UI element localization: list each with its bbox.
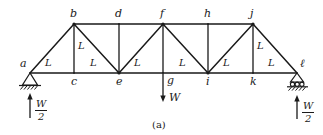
pin-support-hatching xyxy=(21,86,38,90)
figure-caption: (a) xyxy=(152,119,166,130)
node-label-a: a xyxy=(20,58,27,69)
reaction-left-arrowhead xyxy=(27,93,32,100)
length-label-bottom-4: L xyxy=(179,58,186,68)
pin-support-triangle xyxy=(23,73,38,85)
roller-support-rollers xyxy=(290,82,304,86)
reaction-label-left: W 2 xyxy=(35,99,47,122)
member-i-j xyxy=(208,24,253,73)
node-label-g: g xyxy=(167,75,174,86)
applied-load-arrowhead xyxy=(160,96,165,103)
reaction-right-arrowhead xyxy=(294,95,299,102)
joint-j xyxy=(251,22,254,25)
reaction-label-right: W 2 xyxy=(302,101,314,124)
node-label-i: i xyxy=(206,76,210,87)
node-label-b: b xyxy=(70,8,77,19)
length-label-vertical-jk: L xyxy=(257,41,264,51)
reaction-right-denominator: 2 xyxy=(302,114,314,125)
length-label-bottom-6: L xyxy=(268,58,275,68)
node-label-l: ℓ xyxy=(300,58,305,69)
reaction-left-denominator: 2 xyxy=(35,112,47,123)
node-label-f: f xyxy=(160,8,164,19)
reaction-arrow-left xyxy=(27,93,32,118)
reaction-right-numerator: W xyxy=(302,101,314,112)
length-label-bottom-3: L xyxy=(134,58,141,68)
pin-support-left xyxy=(19,73,41,90)
length-label-bottom-2: L xyxy=(90,58,97,68)
joint-b xyxy=(72,22,75,25)
length-label-bottom-1: L xyxy=(45,58,52,68)
reaction-arrow-right xyxy=(294,95,299,119)
member-a-b xyxy=(30,24,74,73)
node-label-d: d xyxy=(115,8,122,19)
roller-support-triangle xyxy=(291,73,304,82)
member-e-f xyxy=(119,24,163,73)
node-label-c: c xyxy=(71,76,77,87)
node-label-h: h xyxy=(204,8,211,19)
length-label-bottom-5: L xyxy=(223,58,230,68)
applied-load-arrow-W xyxy=(160,74,165,102)
roller-support-right xyxy=(287,73,308,91)
truss-figure: a c e g i k ℓ b d f h j L L L L L L L L … xyxy=(0,0,323,135)
roller-support-hatching xyxy=(289,87,306,91)
node-label-j: j xyxy=(250,8,253,19)
node-label-k: k xyxy=(250,76,257,87)
reaction-left-numerator: W xyxy=(35,99,47,110)
applied-load-label-W: W xyxy=(169,92,180,103)
node-label-e: e xyxy=(116,76,123,87)
length-label-vertical-bc: L xyxy=(78,41,85,51)
joint-f xyxy=(161,22,164,25)
